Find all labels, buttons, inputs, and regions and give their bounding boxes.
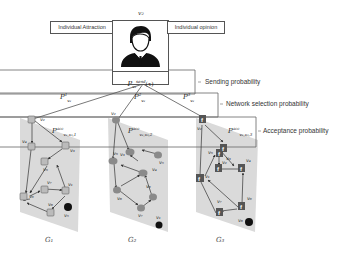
- svg-text:v₅: v₅: [64, 212, 69, 218]
- individual-opinion-label: Individual opinion: [168, 22, 224, 33]
- svg-text:v₈: v₈: [48, 201, 53, 207]
- network-name-g3: G₃: [216, 236, 224, 244]
- edge-label-p1: P1v₂: [60, 92, 71, 103]
- svg-text:v₆: v₆: [247, 195, 252, 201]
- svg-text:v₈: v₈: [117, 195, 122, 201]
- individual-opinion-box: Individual opinion: [167, 21, 225, 34]
- acc-label-g1: Paccv₂,v₃,1: [52, 126, 76, 137]
- individual-attraction-box: Individual Attraction: [50, 21, 114, 34]
- sending-probability-label: Sending probability: [205, 78, 260, 85]
- svg-text:v₇: v₇: [217, 198, 222, 204]
- network-name-g1: G₁: [45, 236, 53, 244]
- svg-text:v₇: v₇: [138, 212, 143, 218]
- person-avatar-icon: [113, 23, 168, 67]
- svg-text:v₄: v₄: [152, 166, 157, 172]
- svg-text:v₂: v₂: [197, 125, 202, 131]
- svg-text:v₃: v₃: [120, 151, 125, 157]
- svg-text:v₅: v₅: [159, 159, 164, 165]
- svg-text:v₈: v₈: [238, 217, 243, 223]
- svg-text:v₁: v₁: [156, 214, 161, 220]
- svg-text:v₁: v₁: [205, 173, 210, 179]
- svg-text:v₂: v₂: [222, 159, 227, 165]
- acc-label-g2: Paccv₂,v₃,2: [128, 126, 152, 137]
- individual-attraction-label: Individual Attraction: [51, 22, 113, 33]
- acceptance-probability-label: Acceptance probability: [263, 127, 328, 134]
- edge-label-p3: P3v₂: [183, 92, 194, 103]
- send-probability-box: Pv₂send(τ): [112, 71, 169, 85]
- svg-text:v₇: v₇: [47, 179, 52, 185]
- acc-label-g3: Paccv₂,v₃,3: [228, 126, 252, 137]
- svg-text:v₁: v₁: [68, 181, 73, 187]
- svg-text:v₄: v₄: [246, 157, 251, 163]
- svg-text:v₉: v₉: [208, 149, 213, 155]
- svg-text:v₂: v₂: [40, 116, 45, 122]
- svg-text:v₂: v₂: [111, 110, 116, 116]
- network-name-g2: G₂: [128, 236, 136, 244]
- send-prob-symbol: Pv₂send(τ): [127, 80, 153, 88]
- svg-text:v₉: v₉: [43, 166, 48, 172]
- svg-text:v₆: v₆: [29, 193, 34, 199]
- svg-text:v₄: v₄: [22, 138, 27, 144]
- svg-text:v₃: v₃: [70, 147, 75, 153]
- edge-label-p2: P2v₂: [134, 92, 145, 103]
- top-node-label: v₂: [138, 9, 144, 16]
- svg-text:v₆: v₆: [146, 183, 151, 189]
- svg-text:v₉: v₉: [113, 150, 118, 156]
- network-selection-probability-label: Network selection probability: [226, 100, 309, 107]
